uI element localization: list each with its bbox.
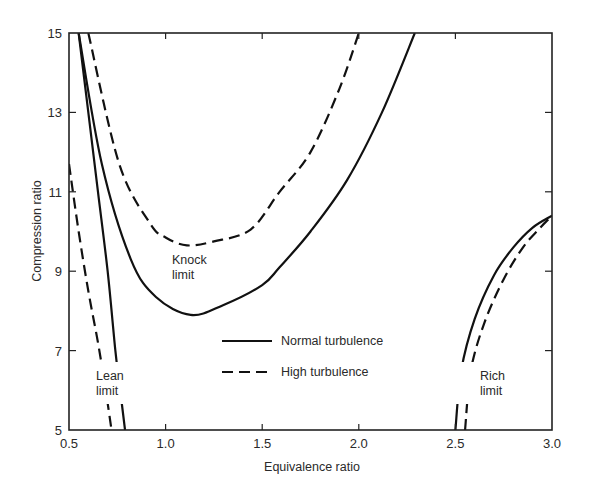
- y-tick-label: 11: [49, 185, 63, 200]
- x-axis-label: Equivalence ratio: [264, 460, 360, 474]
- annotation-lean-limit: Lean: [96, 369, 124, 383]
- y-axis-label: Compression ratio: [30, 180, 44, 281]
- x-tick-label: 1.5: [253, 436, 271, 451]
- y-tick-label: 9: [55, 264, 62, 279]
- series-knock-limit-normal-turbulence: [79, 33, 415, 315]
- legend-label-high: High turbulence: [281, 365, 369, 379]
- x-tick-label: 1.0: [157, 436, 175, 451]
- annotation-rich-limit: Rich: [480, 369, 505, 383]
- y-tick-label: 13: [48, 105, 62, 120]
- y-tick-label: 5: [55, 423, 62, 438]
- y-tick-label: 7: [55, 344, 62, 359]
- annotation-rich-limit: limit: [480, 384, 503, 398]
- series-knock-limit-high-turbulence: [88, 33, 358, 246]
- x-tick-label: 3.0: [543, 436, 561, 451]
- annotation-lean-limit: limit: [96, 384, 119, 398]
- annotation-knock-limit: Knock: [172, 253, 207, 267]
- x-tick-label: 2.5: [446, 436, 464, 451]
- annotations: KnocklimitLeanlimitRichlimit: [92, 253, 512, 404]
- y-tick-label: 15: [48, 26, 62, 41]
- x-tick-label: 2.0: [350, 436, 368, 451]
- legend: Normal turbulence High turbulence: [222, 334, 383, 379]
- x-tick-label: 0.5: [60, 436, 78, 451]
- annotation-knock-limit: limit: [172, 268, 195, 282]
- legend-label-normal: Normal turbulence: [281, 334, 383, 348]
- chart: 0.51.01.52.02.53.0579111315 Equivalence …: [0, 0, 589, 496]
